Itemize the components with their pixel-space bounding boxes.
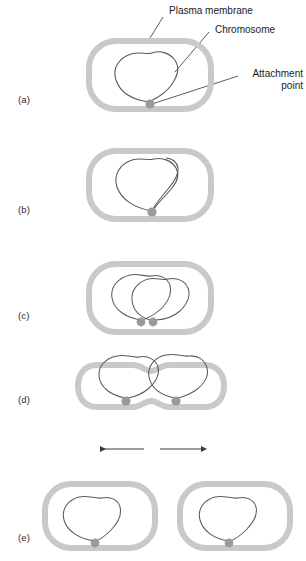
attachment-point-a [145,99,154,108]
panel-label-c: (c) [18,310,30,321]
chromosome-c-2 [132,278,189,320]
attachment-point-d-2 [171,396,180,405]
attachment-point-d-1 [121,396,130,405]
attachment-point-b [147,207,156,216]
chromosome-e-1 [63,496,120,541]
chromosome-b-1 [116,158,178,211]
panel-label-a: (a) [18,94,30,105]
attachment-point-e-1 [91,539,100,548]
callout-chromosome: Chromosome [215,24,275,36]
panel-d-graphic [78,354,224,449]
panel-e-graphic [45,484,290,548]
binary-fission-figure: Plasma membrane Chromosome Attachment po… [0,0,306,561]
chromosome-a [115,52,178,102]
panel-label-b: (b) [18,204,30,215]
attachment-point-e-2 [225,539,234,548]
panel-c-graphic [89,264,211,332]
callout-plasma-membrane: Plasma membrane [169,5,253,17]
panel-label-d: (d) [18,394,30,405]
panel-b-graphic [89,151,211,219]
callout-attachment-point-line2: point [225,80,303,92]
chromosome-c-1 [112,274,171,320]
chromosome-d-1 [99,355,159,398]
callout-attachment-point-line1: Attachment [225,68,303,80]
panel-label-e: (e) [18,532,30,543]
callout-attachment-point: Attachment point [225,68,303,91]
chromosome-e-2 [199,496,256,541]
plasma-membrane-e-1 [45,484,155,548]
attachment-point-c-2 [149,318,158,327]
attachment-point-c-1 [137,318,146,327]
